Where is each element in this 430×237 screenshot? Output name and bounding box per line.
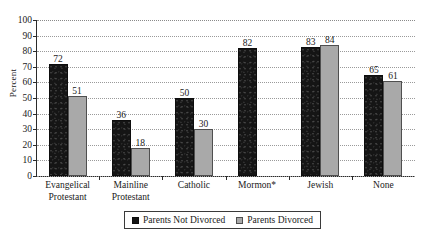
y-tick-mark bbox=[33, 98, 36, 99]
bar-group-4: 82 bbox=[238, 20, 276, 176]
bar-group-6: 6561 bbox=[364, 20, 402, 176]
bar-parents-not-divorced: 36 bbox=[112, 120, 131, 176]
bar-value-label: 84 bbox=[325, 35, 335, 45]
y-tick-mark bbox=[33, 114, 36, 115]
y-tick-label: 90 bbox=[2, 31, 32, 41]
bar-value-label: 61 bbox=[388, 71, 398, 81]
bar-value-label: 72 bbox=[53, 54, 63, 64]
chart-legend: Parents Not Divorced Parents Divorced bbox=[124, 211, 321, 229]
gridline bbox=[37, 98, 415, 99]
bar-value-label: 36 bbox=[117, 110, 127, 120]
y-tick-mark bbox=[33, 160, 36, 161]
bar-parents-not-divorced: 72 bbox=[49, 64, 68, 176]
bar-parents-divorced: 30 bbox=[194, 129, 213, 176]
y-tick-mark bbox=[33, 20, 36, 21]
gridline bbox=[37, 36, 415, 37]
x-axis-label-line-1: Jewish bbox=[307, 180, 333, 190]
y-tick-mark bbox=[33, 176, 36, 177]
legend-label: Parents Not Divorced bbox=[143, 215, 225, 225]
x-axis-label-5: Jewish bbox=[289, 180, 352, 192]
gridline bbox=[37, 129, 415, 130]
bar-value-label: 83 bbox=[306, 37, 316, 47]
bar-value-label: 82 bbox=[243, 38, 253, 48]
y-tick-label: 60 bbox=[2, 77, 32, 87]
y-tick-mark bbox=[33, 67, 36, 68]
bar-parents-not-divorced: 83 bbox=[301, 47, 320, 176]
gridline bbox=[37, 67, 415, 68]
y-tick-label: 0 bbox=[2, 171, 32, 181]
bar-parents-not-divorced: 50 bbox=[175, 98, 194, 176]
bar-group-3: 5030 bbox=[175, 20, 213, 176]
x-axis-label-line-1: Evangelical bbox=[45, 180, 90, 190]
y-tick-mark bbox=[33, 129, 36, 130]
dark-square-icon bbox=[132, 217, 139, 224]
bar-parents-not-divorced: 82 bbox=[238, 48, 257, 176]
y-tick-label: 10 bbox=[2, 155, 32, 165]
legend-entry-parents-not-divorced: Parents Not Divorced bbox=[132, 215, 225, 225]
x-axis-label-line-2: Protestant bbox=[36, 192, 99, 204]
y-tick-mark bbox=[33, 145, 36, 146]
x-axis-label-line-1: Mainline bbox=[114, 180, 148, 190]
x-axis-label-6: None bbox=[352, 180, 415, 192]
bar-parents-not-divorced: 65 bbox=[364, 75, 383, 176]
bar-value-label: 50 bbox=[180, 88, 190, 98]
x-axis-label-line-1: None bbox=[373, 180, 394, 190]
bar-group-5: 8384 bbox=[301, 20, 339, 176]
y-tick-mark bbox=[33, 36, 36, 37]
x-axis-label-2: MainlineProtestant bbox=[99, 180, 162, 203]
x-axis-label-line-1: Mormon* bbox=[238, 180, 276, 190]
gridline bbox=[37, 82, 415, 83]
y-tick-label: 100 bbox=[2, 15, 32, 25]
bar-group-1: 7251 bbox=[49, 20, 87, 176]
x-axis-label-line-2: Protestant bbox=[99, 192, 162, 204]
light-square-icon bbox=[236, 217, 243, 224]
plot-area: 0102030405060708090100 72513618503082838… bbox=[36, 20, 415, 176]
y-tick-label: 50 bbox=[2, 93, 32, 103]
bar-parents-divorced: 84 bbox=[320, 45, 339, 176]
y-tick-label: 20 bbox=[2, 140, 32, 150]
y-tick-label: 70 bbox=[2, 62, 32, 72]
gridline bbox=[37, 114, 415, 115]
x-axis-label-line-1: Catholic bbox=[178, 180, 210, 190]
y-tick-mark bbox=[33, 82, 36, 83]
grouped-bar-chart: Percent 0102030405060708090100 725136185… bbox=[0, 0, 430, 237]
y-tick-mark bbox=[33, 51, 36, 52]
bar-group-2: 3618 bbox=[112, 20, 150, 176]
legend-label: Parents Divorced bbox=[247, 215, 313, 225]
gridline bbox=[37, 20, 415, 21]
x-axis-label-4: Mormon* bbox=[226, 180, 289, 192]
y-tick-label: 30 bbox=[2, 124, 32, 134]
gridline bbox=[37, 145, 415, 146]
x-axis-label-3: Catholic bbox=[162, 180, 225, 192]
bar-value-label: 51 bbox=[72, 86, 82, 96]
x-axis-label-1: EvangelicalProtestant bbox=[36, 180, 99, 203]
legend-entry-parents-divorced: Parents Divorced bbox=[236, 215, 313, 225]
y-tick-label: 40 bbox=[2, 109, 32, 119]
y-tick-label: 80 bbox=[2, 46, 32, 56]
bar-value-label: 18 bbox=[136, 138, 146, 148]
bar-value-label: 30 bbox=[199, 119, 209, 129]
bar-parents-divorced: 18 bbox=[131, 148, 150, 176]
gridline bbox=[37, 51, 415, 52]
bar-parents-divorced: 61 bbox=[383, 81, 402, 176]
bar-parents-divorced: 51 bbox=[68, 96, 87, 176]
bar-value-label: 65 bbox=[369, 65, 379, 75]
gridline bbox=[37, 160, 415, 161]
